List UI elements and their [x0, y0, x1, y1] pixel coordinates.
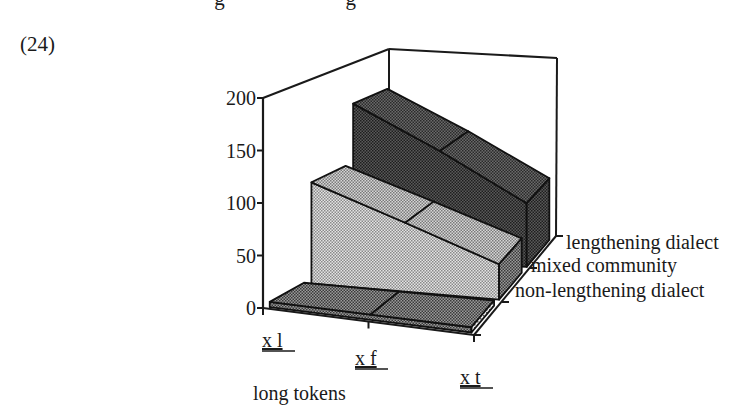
legend-label: mixed community [531, 254, 677, 277]
x-tick-label: x t [460, 366, 481, 388]
back-wall-top-edge [389, 49, 557, 58]
x-tick-label: x f [355, 347, 377, 369]
x-axis-label: long tokens [253, 382, 346, 405]
back-wall-right-edge [556, 58, 557, 236]
y-tick-label: 0 [246, 297, 256, 319]
y-tick-label: 100 [226, 192, 256, 214]
y-tick-label: 200 [226, 87, 256, 109]
y-axis: 050100150200 [226, 87, 263, 319]
legend-label: non-lengthening dialect [515, 279, 705, 302]
back-wall-top-left-edge [263, 49, 389, 98]
legend-label: lengthening dialect [566, 231, 719, 254]
y-tick-label: 50 [236, 245, 256, 267]
y-tick-label: 150 [226, 140, 256, 162]
ribbon-chart-3d: 050100150200 x lx fx t non-lengthening d… [0, 0, 756, 416]
x-tick-label: x l [262, 329, 283, 351]
